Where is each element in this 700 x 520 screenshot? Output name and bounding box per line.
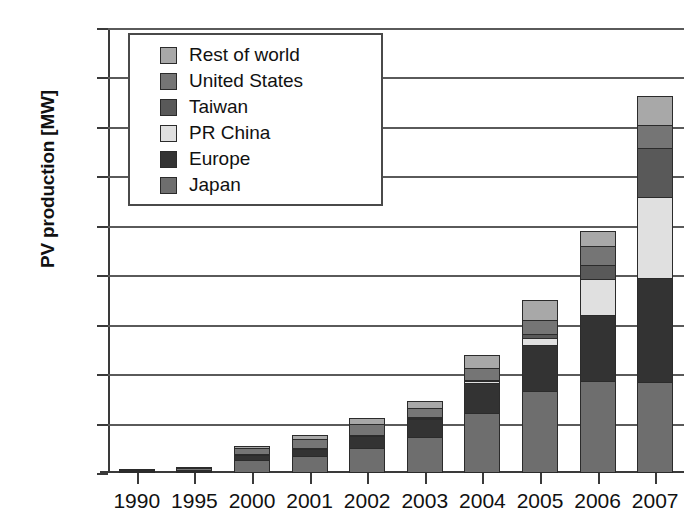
bar-stack bbox=[522, 301, 558, 473]
bar-stack bbox=[637, 97, 673, 473]
bar-segment bbox=[464, 413, 500, 473]
y-tick-mark bbox=[97, 473, 108, 475]
bar-segment bbox=[407, 437, 443, 473]
bar-segment bbox=[637, 278, 673, 383]
bar-stack bbox=[407, 402, 443, 473]
x-tick-mark bbox=[137, 473, 139, 484]
legend-swatch-icon bbox=[160, 151, 177, 168]
y-tick-mark bbox=[97, 374, 108, 376]
x-tick-label: 1995 bbox=[171, 489, 218, 513]
legend-swatch-icon bbox=[160, 99, 177, 116]
bar-segment bbox=[637, 148, 673, 198]
legend-swatch-icon bbox=[160, 73, 177, 90]
legend-item: United States bbox=[130, 68, 381, 94]
y-tick-mark bbox=[97, 127, 108, 129]
y-tick-mark bbox=[97, 176, 108, 178]
legend-item-label: PR China bbox=[189, 122, 270, 144]
legend-item-label: Europe bbox=[189, 148, 250, 170]
x-tick-label: 2006 bbox=[574, 489, 621, 513]
legend-item: Taiwan bbox=[130, 94, 381, 120]
legend-item-label: Rest of world bbox=[189, 44, 300, 66]
y-tick-mark bbox=[97, 77, 108, 79]
legend-item: Europe bbox=[130, 146, 381, 172]
bar-stack bbox=[580, 232, 616, 473]
legend-item-label: Taiwan bbox=[189, 96, 248, 118]
legend-item: Rest of world bbox=[130, 42, 381, 68]
y-tick-mark bbox=[97, 325, 108, 327]
bar-segment bbox=[292, 456, 328, 473]
bar-segment bbox=[522, 391, 558, 473]
bar-segment bbox=[464, 383, 500, 414]
y-axis-title: PV production [MW] bbox=[37, 39, 59, 319]
legend-swatch-icon bbox=[160, 47, 177, 64]
legend: Rest of worldUnited StatesTaiwanPR China… bbox=[128, 33, 383, 206]
legend-item: Japan bbox=[130, 172, 381, 198]
x-tick-label: 2007 bbox=[632, 489, 679, 513]
x-tick-mark bbox=[310, 473, 312, 484]
bar-segment bbox=[580, 246, 616, 266]
bar-segment bbox=[637, 96, 673, 125]
x-tick-mark bbox=[655, 473, 657, 484]
x-tick-label: 1990 bbox=[113, 489, 160, 513]
bar-stack bbox=[234, 447, 270, 473]
x-tick-mark bbox=[482, 473, 484, 484]
bar-stack bbox=[292, 436, 328, 473]
bar-stack bbox=[464, 356, 500, 473]
pv-production-stacked-bar-chart: PV production [MW] 05001.0001.5002.0002.… bbox=[0, 0, 700, 520]
bar-segment bbox=[407, 419, 443, 438]
x-tick-label: 2003 bbox=[401, 489, 448, 513]
bar-segment bbox=[464, 355, 500, 368]
bar-stack bbox=[349, 419, 385, 473]
x-tick-label: 2001 bbox=[286, 489, 333, 513]
x-tick-label: 2000 bbox=[229, 489, 276, 513]
bar-segment bbox=[580, 315, 616, 382]
bar-segment bbox=[580, 381, 616, 473]
bar-segment bbox=[637, 125, 673, 149]
bar-segment bbox=[522, 345, 558, 391]
bar-segment bbox=[580, 279, 616, 316]
x-tick-mark bbox=[425, 473, 427, 484]
bar-segment bbox=[580, 231, 616, 247]
legend-swatch-icon bbox=[160, 177, 177, 194]
x-tick-label: 2004 bbox=[459, 489, 506, 513]
legend-item: PR China bbox=[130, 120, 381, 146]
x-tick-label: 2005 bbox=[517, 489, 564, 513]
bar-segment bbox=[349, 448, 385, 473]
legend-swatch-icon bbox=[160, 125, 177, 142]
x-tick-mark bbox=[598, 473, 600, 484]
y-tick-mark bbox=[97, 28, 108, 30]
x-tick-mark bbox=[194, 473, 196, 484]
x-tick-mark bbox=[367, 473, 369, 484]
x-tick-label: 2002 bbox=[344, 489, 391, 513]
x-tick-mark bbox=[540, 473, 542, 484]
bar-segment bbox=[522, 300, 558, 321]
bar-segment bbox=[637, 382, 673, 473]
y-tick-mark bbox=[97, 424, 108, 426]
bar-segment bbox=[234, 460, 270, 473]
bar-segment bbox=[637, 197, 673, 279]
x-tick-mark bbox=[252, 473, 254, 484]
legend-item-label: Japan bbox=[189, 174, 241, 196]
bar-segment bbox=[349, 436, 385, 449]
bar-segment bbox=[580, 265, 616, 281]
bar-segment bbox=[464, 368, 500, 382]
bar-segment bbox=[522, 320, 558, 335]
y-tick-mark bbox=[97, 226, 108, 228]
y-tick-mark bbox=[97, 275, 108, 277]
legend-item-label: United States bbox=[189, 70, 303, 92]
